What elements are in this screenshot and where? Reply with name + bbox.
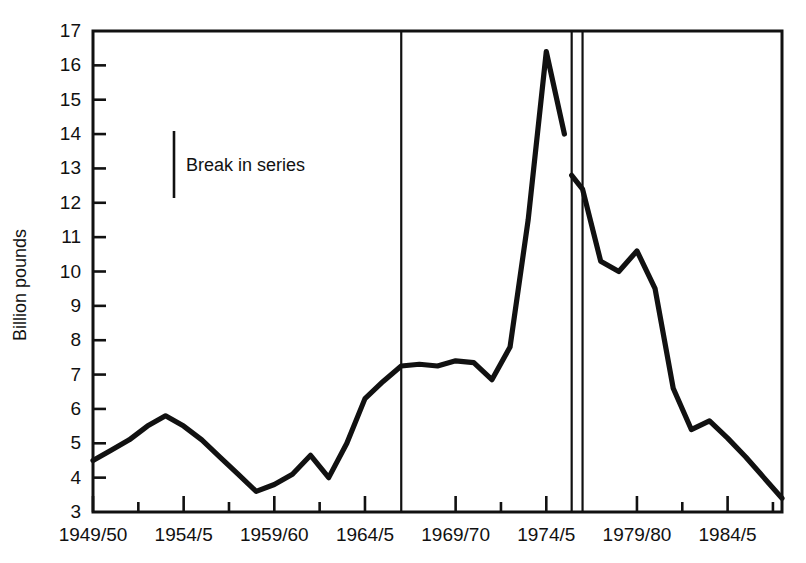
x-tick-label-1954/5: 1954/5	[155, 524, 213, 545]
x-axis-tick-labels: 1949/501954/51959/601964/51969/701974/51…	[59, 524, 757, 545]
segment-1949-1975	[93, 52, 564, 492]
y-tick-label-3: 3	[70, 501, 81, 522]
y-tick-label-9: 9	[70, 295, 81, 316]
line-chart: Billion pounds 17161514131211109876543 1…	[0, 0, 806, 563]
legend-break-in-series: Break in series	[174, 131, 305, 198]
y-axis-tick-labels: 17161514131211109876543	[60, 20, 82, 522]
y-tick-label-6: 6	[70, 398, 81, 419]
x-tick-label-1974/5: 1974/5	[517, 524, 575, 545]
y-tick-label-17: 17	[60, 20, 81, 41]
break-in-series-label: Break in series	[186, 155, 305, 175]
plot-frame	[93, 31, 782, 512]
y-tick-label-4: 4	[70, 467, 81, 488]
y-tick-label-15: 15	[60, 89, 81, 110]
x-tick-label-1949/50: 1949/50	[59, 524, 128, 545]
x-tick-label-1964/5: 1964/5	[336, 524, 394, 545]
segment-1976-1987	[572, 175, 782, 498]
y-tick-label-12: 12	[60, 192, 81, 213]
chart-container: Billion pounds 17161514131211109876543 1…	[0, 0, 806, 563]
x-tick-label-1969/70: 1969/70	[421, 524, 490, 545]
y-tick-label-11: 11	[61, 226, 81, 247]
data-series-line	[93, 52, 782, 499]
x-tick-label-1979/80: 1979/80	[603, 524, 672, 545]
y-tick-label-13: 13	[60, 157, 81, 178]
y-tick-label-7: 7	[70, 364, 81, 385]
y-tick-label-10: 10	[60, 261, 81, 282]
x-axis-ticks	[93, 496, 773, 512]
y-tick-label-14: 14	[60, 123, 82, 144]
y-axis-title: Billion pounds	[10, 229, 30, 341]
y-axis-ticks	[93, 65, 106, 477]
y-tick-label-16: 16	[60, 54, 81, 75]
x-tick-label-1984/5: 1984/5	[699, 524, 757, 545]
y-tick-label-5: 5	[70, 432, 81, 453]
y-tick-label-8: 8	[70, 329, 81, 350]
x-tick-label-1959/60: 1959/60	[240, 524, 309, 545]
